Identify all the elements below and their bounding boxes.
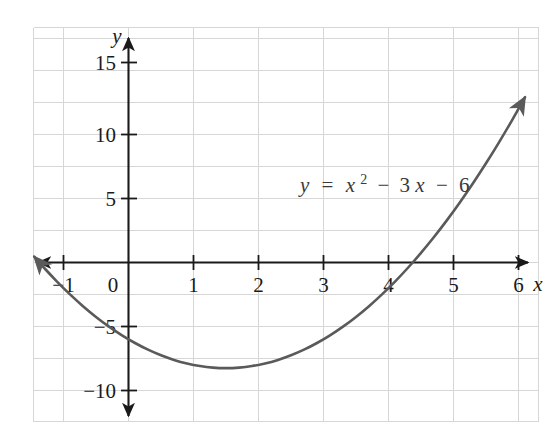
equation-equals: =	[322, 173, 334, 197]
equation-coefficient: 3	[400, 173, 411, 197]
coordinate-plane-chart: −1 0 1 2 3 4 5 6 15 10 5 −5 −10 y x y = …	[0, 0, 554, 442]
equation-lhs: y	[298, 173, 310, 197]
chart-background	[0, 0, 554, 442]
equation-var2: x	[414, 173, 425, 197]
x-tick-label-0: 0	[108, 273, 119, 297]
x-tick-label-6: 6	[513, 273, 524, 297]
x-tick-label-2: 2	[253, 273, 264, 297]
y-tick-label-10: 10	[95, 123, 116, 147]
x-tick-label-neg1: −1	[52, 273, 74, 297]
equation-exponent: 2	[360, 172, 367, 187]
graph-figure: −1 0 1 2 3 4 5 6 15 10 5 −5 −10 y x y = …	[0, 0, 554, 442]
x-tick-label-3: 3	[318, 273, 329, 297]
x-tick-label-5: 5	[448, 273, 459, 297]
y-axis-label: y	[110, 24, 122, 48]
equation-var1: x	[345, 173, 356, 197]
y-tick-label-neg10: −10	[83, 379, 116, 403]
x-axis-label: x	[532, 272, 543, 296]
y-tick-label-5: 5	[106, 187, 117, 211]
equation-minus2: −	[436, 173, 448, 197]
equation-minus1: −	[378, 173, 390, 197]
equation-constant: 6	[459, 173, 470, 197]
x-tick-label-1: 1	[188, 273, 199, 297]
y-tick-label-15: 15	[95, 51, 116, 75]
